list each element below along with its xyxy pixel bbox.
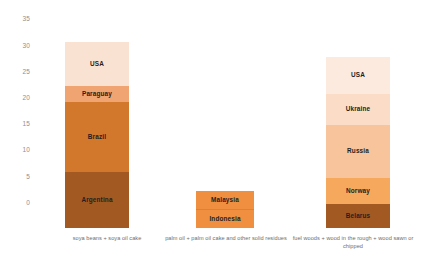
y-tick-15: 15 <box>23 120 30 127</box>
bar-soya-beans: USA Paraguay Brazil Argentina <box>65 42 129 228</box>
category-label-fuel-woods: fuel woods + wood in the rough + wood sa… <box>288 234 418 251</box>
segment-usa: USA <box>65 42 129 86</box>
segment-malaysia: Malaysia <box>196 191 254 209</box>
y-tick-10: 10 <box>23 146 30 153</box>
segment-argentina: Argentina <box>65 172 129 228</box>
segment-label: Russia <box>347 148 369 154</box>
segment-label: Indonesia <box>209 216 240 222</box>
plot-area: USA Paraguay Brazil Argentina Malaysia I… <box>40 18 415 228</box>
segment-label: Ukraine <box>346 106 371 112</box>
segment-ukraine: Ukraine <box>326 94 390 125</box>
segment-norway: Norway <box>326 178 390 204</box>
y-tick-35: 35 <box>23 15 30 22</box>
segment-indonesia: Indonesia <box>196 209 254 228</box>
segment-label: Belarus <box>346 213 371 219</box>
segment-label: USA <box>351 72 365 78</box>
y-tick-30: 30 <box>23 42 30 49</box>
segment-brazil: Brazil <box>65 102 129 172</box>
segment-russia: Russia <box>326 125 390 178</box>
y-axis: 35 30 25 20 15 10 5 0 <box>0 18 36 228</box>
segment-label: Argentina <box>81 197 112 203</box>
stacked-bar-chart: 35 30 25 20 15 10 5 0 USA Paraguay Brazi… <box>0 0 421 267</box>
segment-belarus: Belarus <box>326 204 390 228</box>
category-label-palm-oil: palm oil + palm oil cake and other solid… <box>163 234 289 242</box>
y-tick-25: 25 <box>23 68 30 75</box>
segment-usa: USA <box>326 57 390 94</box>
segment-label: Brazil <box>88 134 106 140</box>
segment-label: USA <box>90 61 104 67</box>
category-label-soya-beans: soya beans + soya oil cake <box>37 234 177 242</box>
y-tick-0: 0 <box>26 199 30 206</box>
segment-paraguay: Paraguay <box>65 86 129 102</box>
segment-label: Malaysia <box>211 197 239 203</box>
segment-label: Norway <box>346 188 370 194</box>
y-tick-20: 20 <box>23 94 30 101</box>
bar-fuel-woods: USA Ukraine Russia Norway Belarus <box>326 57 390 228</box>
y-tick-5: 5 <box>26 173 30 180</box>
segment-label: Paraguay <box>82 91 112 97</box>
bar-palm-oil: Malaysia Indonesia <box>196 191 254 228</box>
